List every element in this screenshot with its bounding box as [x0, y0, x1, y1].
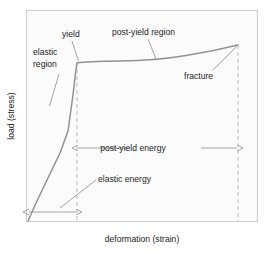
y-axis-label: load (stress)	[6, 92, 16, 139]
fracture-label: fracture	[184, 71, 213, 81]
elastic-region-label-line2: region	[33, 59, 57, 69]
x-axis-label: deformation (strain)	[105, 234, 180, 244]
post-yield-energy-label: post-yield energy	[100, 143, 166, 153]
plot-frame	[27, 11, 258, 222]
elastic-region-label-line1: elastic	[33, 47, 58, 57]
figure-canvas: elastic region yield post-yield region f…	[0, 0, 272, 253]
post-yield-region-label: post-yield region	[112, 27, 175, 37]
elastic-energy-label: elastic energy	[98, 174, 152, 184]
stress-strain-diagram: elastic region yield post-yield region f…	[0, 0, 272, 253]
yield-label: yield	[62, 29, 80, 39]
